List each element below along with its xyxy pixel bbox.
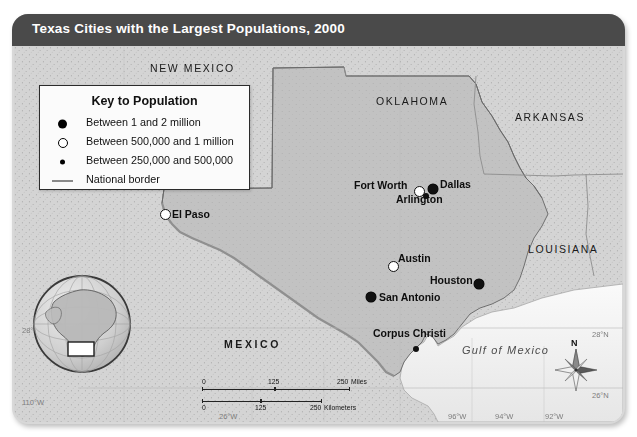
city-marker-el-paso[interactable] <box>160 209 171 220</box>
graticule-label-bottom-26w: 26°W <box>219 412 237 421</box>
small-filled-circle-icon <box>60 159 65 164</box>
compass-star-icon <box>554 348 598 392</box>
water-label-gulf-of-mexico: Gulf of Mexico <box>462 344 549 356</box>
scale-unit-miles: Miles <box>351 378 367 385</box>
city-label-fort-worth: Fort Worth <box>354 179 407 191</box>
scale-label-km-0: 0 <box>202 404 206 411</box>
scale-label-miles-0: 0 <box>202 378 206 385</box>
legend-label: Between 250,000 and 500,000 <box>86 154 233 166</box>
city-label-austin: Austin <box>398 252 431 264</box>
city-marker-san-antonio[interactable] <box>366 292 376 302</box>
graticule-label-bottom-92w: 92°W <box>545 412 563 421</box>
region-label-mexico: MEXICO <box>224 338 281 350</box>
title-bar: Texas Cities with the Largest Population… <box>12 14 625 46</box>
legend-item-1-2-million: Between 1 and 2 million <box>50 114 249 133</box>
legend-label: Between 1 and 2 million <box>86 116 201 128</box>
page-title: Texas Cities with the Largest Population… <box>32 21 345 36</box>
scale-bar-km-line <box>202 399 322 403</box>
scale-label-km-125: 125 <box>255 404 266 411</box>
graticule-label-bottom-96w: 96°W <box>448 412 466 421</box>
city-marker-corpus-christi[interactable] <box>413 346 419 352</box>
city-label-san-antonio: San Antonio <box>379 291 440 303</box>
city-label-dallas: Dallas <box>440 178 471 190</box>
legend-item-national-border: National border <box>50 171 249 190</box>
hollow-circle-icon <box>58 138 68 148</box>
texas-locator-box <box>68 342 94 356</box>
region-label-oklahoma: OKLAHOMA <box>376 95 448 107</box>
scale-tick-km-mid <box>260 399 262 403</box>
map-figure: Texas Cities with the Largest Population… <box>0 0 637 437</box>
region-label-new-mexico: NEW MEXICO <box>150 62 235 74</box>
city-label-el-paso: El Paso <box>172 208 210 220</box>
region-label-arkansas: ARKANSAS <box>515 111 585 123</box>
globe-graphic <box>24 268 140 374</box>
gray-line-icon <box>52 180 73 182</box>
city-label-corpus-christi: Corpus Christi <box>373 328 411 340</box>
legend-item-500k-1-million: Between 500,000 and 1 million <box>50 133 249 152</box>
graticule-label-right-26n: 26°N <box>592 391 609 400</box>
legend-item-250k-500k: Between 250,000 and 500,000 <box>50 152 249 171</box>
city-label-arlington: Arlington <box>396 193 443 205</box>
graticule-label-bottom-94w: 94°W <box>495 412 513 421</box>
region-label-louisiana: LOUISIANA <box>528 243 598 255</box>
inset-globe <box>24 268 140 374</box>
large-filled-circle-icon <box>58 119 67 128</box>
city-marker-houston[interactable] <box>474 279 484 289</box>
legend-label: Between 500,000 and 1 million <box>86 135 234 147</box>
map-legend: Key to Population Between 1 and 2 millio… <box>39 85 250 190</box>
scale-bar-miles-line <box>202 387 350 391</box>
scale-unit-kilometers: Kilometers <box>324 404 356 411</box>
compass-rose: N <box>554 338 598 390</box>
city-label-houston: Houston <box>430 274 473 286</box>
scale-label-miles-125: 125 <box>268 378 279 385</box>
legend-label: National border <box>86 173 160 185</box>
graticule-label-left-110w: 110°W <box>22 398 44 407</box>
scale-label-km-250: 250 <box>310 404 321 411</box>
scale-label-miles-250: 250 <box>337 378 348 385</box>
compass-north-label: N <box>571 338 578 348</box>
scale-tick-miles-mid <box>274 387 276 391</box>
legend-title: Key to Population <box>40 94 249 108</box>
